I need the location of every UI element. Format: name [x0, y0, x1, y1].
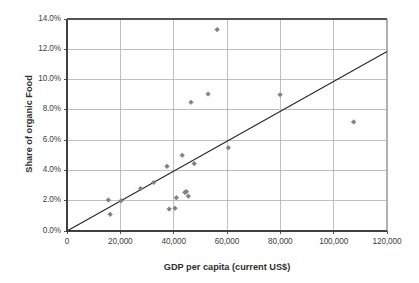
data-point [106, 198, 111, 203]
data-point [278, 92, 283, 97]
data-point [108, 212, 113, 217]
data-point [206, 92, 211, 97]
data-point [180, 153, 185, 158]
data-point [186, 194, 191, 199]
x-axis-tick-label: 60,000 [202, 237, 252, 246]
data-point [192, 161, 197, 166]
plot-frame [64, 19, 387, 234]
y-axis-tick-label: 2.0% [17, 195, 61, 204]
data-point [119, 198, 124, 203]
data-point [165, 164, 170, 169]
x-axis-tick-label: 80,000 [255, 237, 305, 246]
scatter-chart: 0.0%2.0%4.0%6.0%8.0%10.0%12.0%14.0% 020,… [0, 0, 419, 283]
x-axis-tick-label: 0 [42, 237, 92, 246]
x-axis-tick-label: 120,000 [362, 237, 412, 246]
grid-lines [67, 19, 387, 231]
data-point [174, 195, 179, 200]
y-axis-tick-label: 14.0% [17, 14, 61, 23]
x-axis-title: GDP per capita (current US$) [67, 262, 387, 272]
y-axis-title: Share of organic Food [24, 54, 34, 194]
x-axis-tick-label: 100,000 [309, 237, 359, 246]
data-point [215, 27, 220, 32]
data-point [167, 207, 172, 212]
x-axis-tick-label: 40,000 [149, 237, 199, 246]
x-axis-tick-label: 20,000 [95, 237, 145, 246]
data-point [351, 120, 356, 125]
data-point [189, 100, 194, 105]
y-axis-tick-label: 0.0% [17, 226, 61, 235]
y-axis-tick-label: 12.0% [17, 44, 61, 53]
